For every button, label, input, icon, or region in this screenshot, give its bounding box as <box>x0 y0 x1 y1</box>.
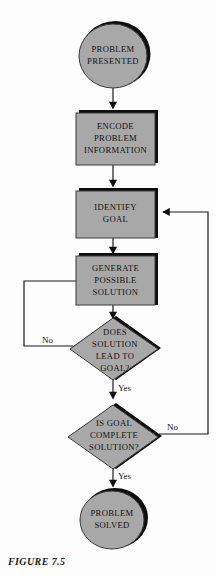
decision1-line2: SOLUTION <box>92 339 138 349</box>
connector-decision2-no-loop <box>159 212 208 434</box>
node-problem-presented[interactable]: PROBLEM PRESENTED <box>79 21 151 88</box>
edge-label-yes-to-solved: Yes <box>118 471 132 481</box>
edge-label-no-regenerate: No <box>42 335 53 345</box>
decision1-line4: GOAL? <box>100 363 129 373</box>
generate-solution-line2: POSSIBLE <box>94 275 136 285</box>
problem-presented-line2: PRESENTED <box>87 56 139 66</box>
edge-label-yes-to-goal-check: Yes <box>118 383 132 393</box>
encode-problem-line1: ENCODE <box>97 121 134 131</box>
decision2-line2: COMPLETE <box>90 430 138 440</box>
decision2-line1: IS GOAL <box>96 418 132 428</box>
encode-problem-line3: INFORMATION <box>84 145 147 155</box>
edge-label-no-back-to-identify: No <box>167 422 178 432</box>
node-problem-solved[interactable]: PROBLEM SOLVED <box>80 488 148 549</box>
problem-solved-line2: SOLVED <box>94 520 129 530</box>
generate-solution-line1: GENERATE <box>92 263 139 273</box>
problem-presented-line1: PROBLEM <box>91 44 134 54</box>
node-encode-problem-information[interactable]: ENCODE PROBLEM INFORMATION <box>76 110 158 165</box>
decision1-line3: LEAD TO <box>96 351 135 361</box>
decision1-line1: DOES <box>103 327 127 337</box>
node-generate-possible-solution[interactable]: GENERATE POSSIBLE SOLUTION <box>76 253 158 305</box>
node-is-goal-complete-solution[interactable]: IS GOAL COMPLETE SOLUTION? <box>68 403 162 469</box>
identify-goal-line2: GOAL <box>103 214 128 224</box>
flowchart-canvas: PROBLEM PRESENTED ENCODE PROBLEM INFORMA… <box>0 0 216 576</box>
identify-goal-line1: IDENTIFY <box>94 202 136 212</box>
problem-solved-line1: PROBLEM <box>90 508 133 518</box>
node-does-solution-lead-to-goal[interactable]: DOES SOLUTION LEAD TO GOAL? <box>70 316 161 380</box>
generate-solution-line3: SOLUTION <box>93 287 139 297</box>
decision2-line3: SOLUTION? <box>89 442 139 452</box>
figure-caption: FIGURE 7.5 <box>8 556 65 567</box>
node-identify-goal[interactable]: IDENTIFY GOAL <box>76 188 158 238</box>
encode-problem-line2: PROBLEM <box>94 133 137 143</box>
figure-container: PROBLEM PRESENTED ENCODE PROBLEM INFORMA… <box>0 0 216 576</box>
